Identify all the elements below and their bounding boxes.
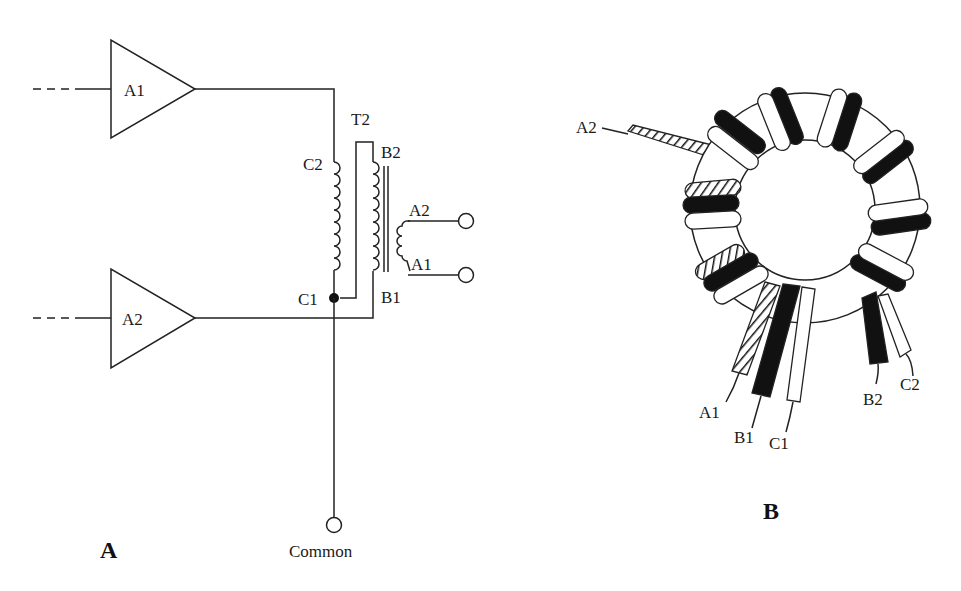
panel-a-label: A (100, 537, 118, 563)
terminal-a1-icon (459, 268, 474, 283)
lead-a2-wire (628, 125, 712, 156)
common-label: Common (289, 542, 353, 561)
winding-c2-label: C2 (303, 155, 323, 174)
amplifier-a1: A1 (33, 40, 334, 162)
output-a1-label: A1 (411, 255, 432, 274)
lead-c2-label: C2 (900, 375, 920, 394)
amplifier-a2: A2 (33, 269, 373, 368)
coil-c-icon (334, 162, 340, 298)
transformer-t2: T2 C2 C1 B2 B1 A2 A1 (298, 110, 474, 309)
coil-output-icon (397, 221, 410, 271)
schematic-panel-a: A1 A2 T2 C2 C1 B2 B1 (33, 40, 474, 563)
lead-c1-label: C1 (769, 434, 789, 453)
terminal-a2-icon (459, 214, 474, 229)
output-a2-label: A2 (409, 201, 430, 220)
toroid-panel-b: A2 (576, 85, 932, 524)
lead-a1-label: A1 (699, 403, 720, 422)
coil-b-icon (373, 162, 379, 270)
lead-b1-label: B1 (734, 428, 754, 447)
winding-c1-label: C1 (298, 290, 318, 309)
lead-b2-label: B2 (863, 390, 883, 409)
winding-b1-label: B1 (381, 288, 401, 307)
transformer-label: T2 (351, 110, 370, 129)
terminal-common-icon (327, 518, 342, 533)
panel-b-label: B (763, 498, 779, 524)
lead-a2-label: A2 (576, 118, 597, 137)
amplifier-a1-label: A1 (124, 81, 145, 100)
winding-b2-label: B2 (381, 143, 401, 162)
amplifier-a2-label: A2 (122, 310, 143, 329)
diagram-canvas: A1 A2 T2 C2 C1 B2 B1 (0, 0, 961, 591)
